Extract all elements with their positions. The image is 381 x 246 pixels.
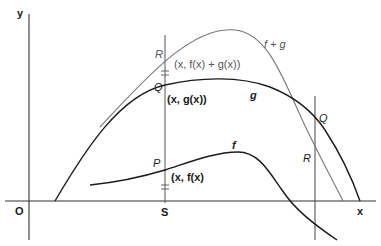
curve-f-label: f — [232, 139, 237, 151]
coord-f-label: (x, f(x) — [171, 171, 204, 183]
y-axis-label: y — [17, 7, 24, 19]
curve-g — [55, 79, 360, 201]
point-q-label-left: Q — [154, 81, 163, 93]
point-r-label-right: R — [303, 152, 311, 164]
origin-label: O — [15, 205, 24, 217]
x-axis-label: x — [357, 205, 364, 217]
curve-f — [90, 152, 337, 240]
curve-f-plus-g — [100, 30, 343, 201]
curve-g-label: g — [249, 89, 257, 101]
point-p-label: P — [153, 157, 161, 169]
point-q-label-right: Q — [319, 112, 328, 124]
point-r-label-left: R — [155, 48, 163, 60]
function-sum-diagram: y x O S R Q P (x, f(x) + g(x)) (x, g(x))… — [0, 0, 381, 246]
coord-g-label: (x, g(x)) — [167, 93, 207, 105]
coord-f-plus-g-label: (x, f(x) + g(x)) — [174, 58, 240, 70]
diagram-canvas: y x O S R Q P (x, f(x) + g(x)) (x, g(x))… — [0, 0, 381, 246]
point-s-label: S — [161, 206, 168, 218]
curve-f-plus-g-label: f + g — [264, 38, 287, 50]
